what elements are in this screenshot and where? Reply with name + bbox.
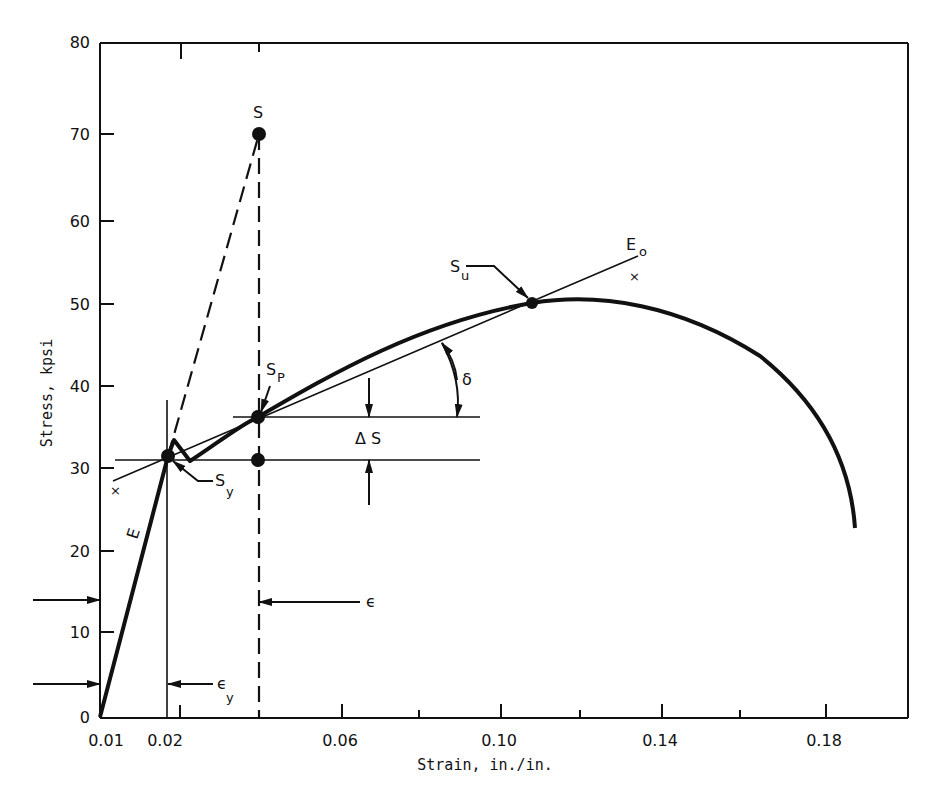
point-Sy: [161, 449, 175, 463]
label-epsilon: ϵ: [366, 592, 376, 611]
label-delta-S: Δ S: [355, 429, 381, 448]
y-tick-40: 40: [70, 377, 90, 396]
label-epsilon-y-sub: y: [226, 690, 234, 705]
x-tick-0.10: 0.10: [481, 731, 517, 750]
x-axis-title: Strain, in./in.: [417, 756, 552, 774]
label-S: S: [253, 103, 263, 122]
annotation-labels: S S u E o × S P S y × E δ Δ S ϵ ϵ y: [110, 103, 647, 705]
point-S: [252, 127, 266, 141]
stress-strain-curve: [100, 299, 855, 717]
y-tick-30: 30: [70, 459, 90, 478]
point-Su: [526, 297, 538, 309]
point-lower: [251, 453, 265, 467]
label-Sy: S: [215, 471, 225, 490]
y-tick-10: 10: [70, 623, 90, 642]
x-mark-right: ×: [629, 269, 640, 284]
y-axis-ticks: [100, 134, 114, 632]
x-tick-0.01: 0.01: [88, 731, 124, 750]
y-tick-80: 80: [70, 33, 90, 52]
label-Sp-sub: P: [277, 370, 285, 385]
su-leader-arrow: [466, 266, 528, 298]
label-Su: S: [450, 257, 460, 276]
y-axis-title: Stress, kpsi: [38, 339, 56, 447]
label-Su-sub: u: [461, 268, 469, 283]
x-tick-labels: 0.01 0.02 0.06 0.10 0.14 0.18: [88, 731, 842, 750]
data-points: [161, 127, 538, 467]
annotation-arrows: [33, 266, 528, 684]
label-Eo-sub: o: [639, 244, 647, 259]
y-tick-60: 60: [70, 212, 90, 231]
label-delta: δ: [462, 370, 472, 389]
x-tick-0.02: 0.02: [147, 731, 183, 750]
label-Sy-sub: y: [226, 484, 234, 499]
point-Sp: [251, 410, 265, 424]
label-Eo: E: [626, 235, 636, 254]
y-tick-0: 0: [80, 708, 90, 727]
sy-leader-arrow: [173, 461, 213, 481]
x-tick-0.14: 0.14: [642, 731, 678, 750]
y-tick-labels: 80 70 60 50 40 30 20 10 0: [70, 33, 90, 727]
y-tick-70: 70: [70, 125, 90, 144]
y-tick-50: 50: [70, 295, 90, 314]
stress-strain-chart: 80 70 60 50 40 30 20 10 0 0.01 0.02 0.06…: [0, 0, 936, 801]
label-E: E: [123, 526, 144, 541]
x-tick-0.06: 0.06: [322, 731, 358, 750]
reference-lines: [113, 256, 638, 718]
x-axis-ticks: [180, 704, 826, 718]
label-Sp: S: [266, 360, 276, 379]
x-tick-0.18: 0.18: [806, 731, 842, 750]
x-mark-left: ×: [110, 483, 121, 498]
sp-leader-arrow: [261, 386, 270, 412]
top-axis-ticks: [181, 43, 259, 59]
y-tick-20: 20: [70, 542, 90, 561]
